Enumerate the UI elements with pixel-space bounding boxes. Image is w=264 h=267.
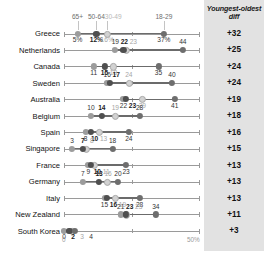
country-label-new-zealand: New Zealand xyxy=(0,210,60,219)
axis-tick-start xyxy=(64,64,65,69)
value-label: 9 xyxy=(86,168,90,175)
axis-tick-end xyxy=(199,97,200,102)
value-label: 11 xyxy=(90,69,97,76)
value-label: 7 xyxy=(81,137,85,144)
axis-tick-mid xyxy=(132,180,133,184)
axis-tick-end xyxy=(199,180,200,185)
diff-value: +24 xyxy=(206,62,262,71)
country-label-sweden: Sweden xyxy=(0,79,60,88)
diff-value: +19 xyxy=(206,95,262,104)
dot-50-64 xyxy=(107,80,113,86)
axis-tick-end xyxy=(199,196,200,201)
value-label: 17 xyxy=(113,71,120,78)
range-connector xyxy=(78,33,164,35)
dot-18-29 xyxy=(180,47,186,53)
legend-item-65plus: 65+ xyxy=(72,13,83,20)
legend-item-50-64: 50-64 xyxy=(88,13,105,20)
value-label: 16 xyxy=(104,71,111,78)
dot-18-29 xyxy=(115,178,121,184)
diff-value: +13 xyxy=(206,177,262,186)
value-label: 2 xyxy=(71,233,75,240)
value-label: 37% xyxy=(157,36,170,43)
dot-30-49 xyxy=(126,80,133,87)
country-label-netherlands: Netherlands xyxy=(0,46,60,55)
axis-tick-end xyxy=(199,163,200,168)
axis-tick-start xyxy=(64,97,65,102)
value-label: 23 xyxy=(130,38,137,45)
diff-value: +13 xyxy=(206,161,262,170)
country-label-france: France xyxy=(0,161,60,170)
dot-65plus xyxy=(80,178,86,184)
axis-tick-start xyxy=(64,147,65,152)
country-label-singapore: Singapore xyxy=(0,144,60,153)
axis-tick-start xyxy=(64,32,65,37)
legend-pointer-line xyxy=(107,21,108,30)
value-label: 23 xyxy=(122,168,129,175)
value-label: 40 xyxy=(168,71,175,78)
dot-18-29 xyxy=(136,113,142,119)
dot-65plus xyxy=(69,146,75,152)
value-label: 3 xyxy=(80,233,84,240)
axis-tick-end xyxy=(199,147,200,152)
diff-value: +13 xyxy=(206,194,262,203)
axis-tick-end xyxy=(199,212,200,217)
axis-tick-mid xyxy=(132,164,133,168)
value-label: 41 xyxy=(171,102,178,109)
dot-50-64 xyxy=(99,113,105,119)
range-connector xyxy=(72,148,113,150)
dot-18-29 xyxy=(153,211,159,217)
axis-tick-start xyxy=(64,163,65,168)
diff-value: +32 xyxy=(206,29,262,38)
x-tick-label-50: 50% xyxy=(187,236,200,243)
diff-value: +18 xyxy=(206,111,262,120)
value-label: 10 xyxy=(87,104,94,111)
value-label: 8 xyxy=(90,137,94,144)
value-label: 23 xyxy=(135,203,142,210)
country-label-canada: Canada xyxy=(0,62,60,71)
value-label: 35 xyxy=(155,69,162,76)
country-label-italy: Italy xyxy=(0,194,60,203)
legend-pointer-line xyxy=(164,21,165,30)
dot-plot-chart: Youngest-oldest diff 65+50-6430-4918-29 … xyxy=(0,0,264,267)
country-label-germany: Germany xyxy=(0,177,60,186)
diff-value: +3 xyxy=(206,226,262,235)
dot-30-49 xyxy=(104,178,111,185)
country-label-belgium: Belgium xyxy=(0,112,60,121)
axis-tick-start xyxy=(64,48,65,53)
axis-tick-end xyxy=(199,130,200,135)
dot-50-64 xyxy=(96,178,102,184)
value-label: 18 xyxy=(109,137,116,144)
range-connector xyxy=(123,99,174,101)
value-label: 44 xyxy=(179,38,186,45)
value-label: 22 xyxy=(121,38,128,45)
dot-30-49 xyxy=(112,113,119,120)
axis-tick-start xyxy=(64,196,65,201)
legend-pointer-line xyxy=(96,21,97,30)
value-label: 15 xyxy=(101,201,108,208)
axis-tick-mid xyxy=(132,229,133,233)
axis-tick-start xyxy=(64,180,65,185)
diff-value: +11 xyxy=(206,210,262,219)
axis-tick-start xyxy=(64,130,65,135)
x-tick-label-0: 0 xyxy=(62,236,66,243)
dot-18-29 xyxy=(169,80,175,86)
diff-value: +15 xyxy=(206,144,262,153)
value-label: 24 xyxy=(125,71,132,78)
range-connector xyxy=(107,82,172,84)
axis-tick-end xyxy=(199,81,200,86)
value-label: 23 xyxy=(126,203,133,210)
value-label: 24 xyxy=(125,135,132,142)
axis-tick-end xyxy=(199,229,200,234)
country-label-south-korea: South Korea xyxy=(0,227,60,236)
axis-tick-start xyxy=(64,114,65,119)
dot-18-29 xyxy=(109,146,115,152)
country-label-greece: Greece xyxy=(0,29,60,38)
diff-value: +25 xyxy=(206,45,262,54)
diff-column-header: Youngest-oldest diff xyxy=(206,5,262,22)
value-label: 34 xyxy=(152,203,159,210)
value-label: 22 xyxy=(120,102,127,109)
diff-value: +16 xyxy=(206,128,262,137)
axis-tick-start xyxy=(64,81,65,86)
legend-item-18-29: 18-29 xyxy=(155,13,172,20)
axis-tick-end xyxy=(199,114,200,119)
